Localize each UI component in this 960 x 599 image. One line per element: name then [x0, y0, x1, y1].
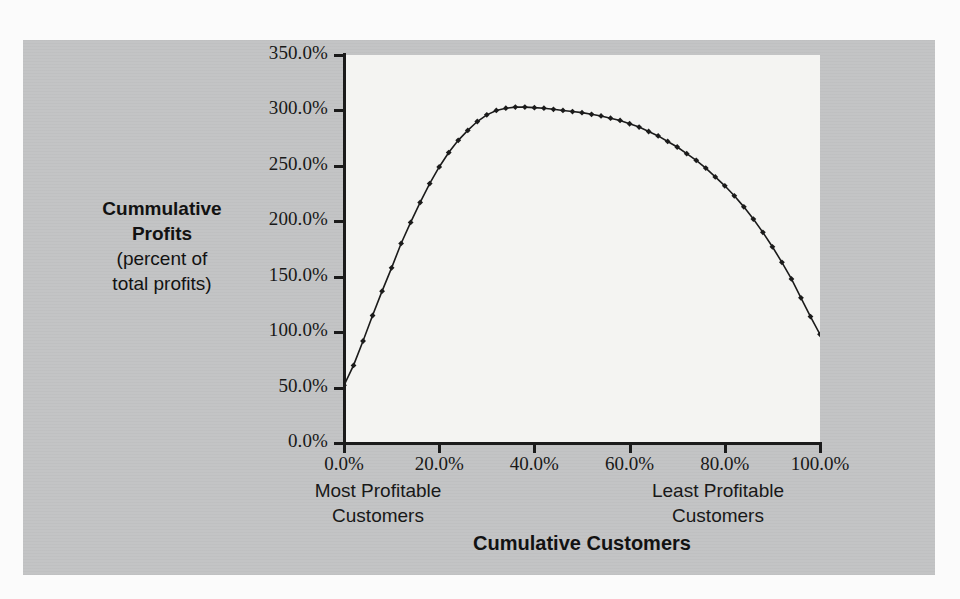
y-axis-title: Cummulative Profits (percent of total pr… — [78, 196, 246, 296]
y-axis-tick-label: 350.0% — [228, 42, 328, 64]
y-axis-tick — [334, 442, 343, 445]
y-axis-title-line-2: Profits — [78, 221, 246, 246]
y-axis-tick-label: 0.0% — [228, 430, 328, 452]
y-axis-tick — [334, 220, 343, 223]
series-marker — [608, 115, 614, 121]
x-axis-tick-label: 100.0% — [765, 453, 875, 475]
series-marker — [541, 105, 547, 111]
series-marker — [512, 104, 518, 110]
series-marker — [560, 108, 566, 114]
series-marker — [579, 110, 585, 116]
series-marker — [503, 105, 509, 111]
series-marker — [379, 288, 385, 294]
series-marker — [570, 109, 576, 115]
y-axis-tick — [334, 165, 343, 168]
series-marker — [389, 265, 395, 271]
series-marker — [522, 104, 528, 110]
series-marker — [351, 363, 357, 369]
series-marker — [636, 124, 642, 130]
x-axis-tick — [533, 444, 536, 453]
series-marker — [493, 108, 499, 114]
y-axis-tick-label: 50.0% — [228, 375, 328, 397]
x-axis-tick — [343, 444, 346, 453]
y-axis-tick — [334, 54, 343, 57]
series-marker — [798, 295, 804, 301]
series-marker — [398, 241, 404, 247]
y-axis-title-line-3: (percent of — [78, 246, 246, 271]
annotation-least-profitable: Least Profitable Customers — [608, 478, 828, 528]
x-axis-tick-label: 60.0% — [575, 453, 685, 475]
scanned-page: 0.0%50.0%100.0%150.0%200.0%250.0%300.0%3… — [0, 0, 960, 599]
y-axis-title-line-4: total profits) — [78, 271, 246, 296]
annotation-most-profitable: Most Profitable Customers — [268, 478, 488, 528]
y-axis-tick — [334, 109, 343, 112]
annotation-most-profitable-line-1: Most Profitable — [268, 478, 488, 503]
series-marker — [408, 219, 414, 225]
x-axis-tick-label: 80.0% — [670, 453, 780, 475]
y-axis-tick — [334, 387, 343, 390]
series-marker — [646, 129, 652, 135]
series-marker — [808, 314, 814, 320]
series-marker — [617, 118, 623, 124]
y-axis-tick-label: 100.0% — [228, 319, 328, 341]
x-axis-tick — [629, 444, 632, 453]
series-marker — [627, 121, 633, 127]
x-axis-tick-label: 0.0% — [289, 453, 399, 475]
x-axis-tick — [438, 444, 441, 453]
series-marker — [551, 106, 557, 112]
y-axis-tick-label: 300.0% — [228, 97, 328, 119]
annotation-least-profitable-line-1: Least Profitable — [608, 478, 828, 503]
y-axis-tick — [334, 276, 343, 279]
series-marker — [589, 111, 595, 117]
series-marker — [370, 313, 376, 319]
series-marker — [598, 113, 604, 119]
series-marker — [360, 338, 366, 344]
x-axis-title: Cumulative Customers — [344, 532, 820, 555]
y-axis-title-line-1: Cummulative — [78, 196, 246, 221]
x-axis-tick — [819, 444, 822, 453]
series-line — [344, 107, 820, 385]
y-axis-tick-label: 250.0% — [228, 153, 328, 175]
annotation-most-profitable-line-2: Customers — [268, 503, 488, 528]
x-axis-tick — [724, 444, 727, 453]
series-marker — [532, 105, 538, 111]
y-axis-tick — [334, 331, 343, 334]
x-axis-tick-label: 20.0% — [384, 453, 494, 475]
series-marker — [417, 200, 423, 206]
line-series-curve — [344, 55, 820, 443]
annotation-least-profitable-line-2: Customers — [608, 503, 828, 528]
x-axis-tick-label: 40.0% — [479, 453, 589, 475]
